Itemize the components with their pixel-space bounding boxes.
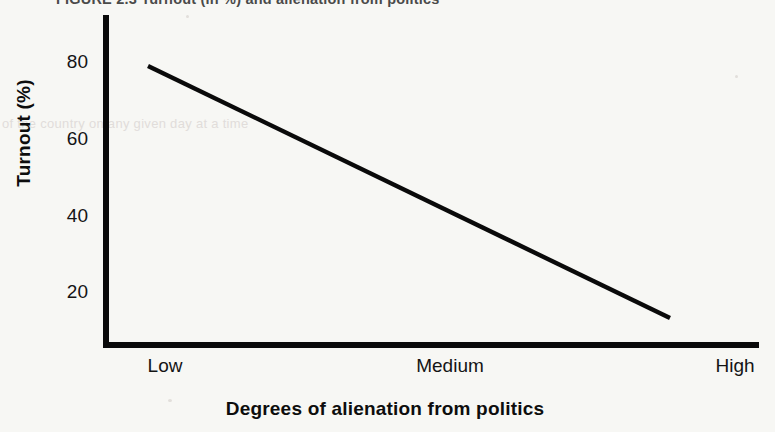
axis-spine [106,18,756,345]
y-tick-label-20: 20 [42,282,88,301]
y-tick-label-80: 80 [42,52,88,71]
y-tick-label-60: 60 [42,129,88,148]
y-axis-title: Turnout (%) [13,63,35,203]
turnout-line [148,66,670,318]
y-tick-label-40: 40 [42,206,88,225]
figure-container: FIGURE 2.3 Turnout (in %) and alienation… [0,0,775,432]
x-axis-title: Degrees of alienation from politics [103,398,667,420]
x-tick-label-low: Low [148,356,183,375]
x-tick-label-medium: Medium [416,356,484,375]
x-tick-label-high: High [715,356,754,375]
plot-area [0,0,775,432]
